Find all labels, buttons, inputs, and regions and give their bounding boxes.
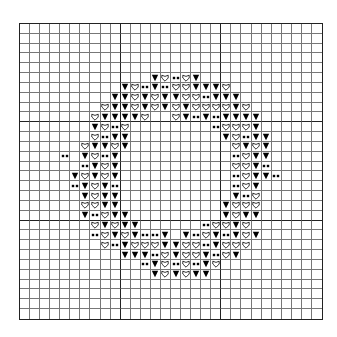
filled-triangle-icon	[242, 142, 250, 150]
grid-cell	[282, 181, 292, 191]
filled-triangle-icon	[242, 211, 250, 219]
grid-cell	[70, 201, 80, 211]
grid-cell	[191, 240, 201, 250]
grid-cell	[272, 250, 282, 260]
outline-heart-icon	[131, 83, 139, 91]
grid-cell	[151, 240, 161, 250]
grid-cell	[221, 201, 231, 211]
grid-cell	[151, 132, 161, 142]
grid-cell	[80, 280, 90, 290]
grid-cell	[60, 122, 70, 132]
outline-heart-icon	[131, 93, 139, 101]
grid-cell	[121, 270, 131, 280]
grid-cell	[131, 103, 141, 113]
filled-triangle-icon	[141, 103, 149, 111]
grid-cell	[40, 63, 50, 73]
grid-cell	[241, 142, 251, 152]
grid-cell	[211, 63, 221, 73]
filled-triangle-icon	[242, 113, 250, 121]
grid-cell	[211, 240, 221, 250]
grid-cell	[20, 309, 30, 319]
grid-cell	[131, 201, 141, 211]
outline-heart-icon	[151, 93, 159, 101]
grid-cell	[121, 309, 131, 319]
grid-cell	[20, 44, 30, 54]
outline-heart-icon	[131, 241, 139, 249]
grid-cell	[121, 24, 131, 34]
grid-cell	[211, 73, 221, 83]
grid-cell	[252, 152, 262, 162]
grid-cell	[292, 289, 302, 299]
grid-cell	[80, 250, 90, 260]
grid-cell	[302, 270, 312, 280]
grid-cell	[70, 289, 80, 299]
grid-cell	[141, 289, 151, 299]
grid-cell	[292, 122, 302, 132]
filled-triangle-icon	[101, 192, 109, 200]
grid-cell	[151, 83, 161, 93]
grid-cell	[272, 93, 282, 103]
grid-cell	[302, 250, 312, 260]
grid-cell	[141, 132, 151, 142]
grid-cell	[171, 162, 181, 172]
grid-cell	[231, 162, 241, 172]
outline-heart-icon	[81, 201, 89, 209]
grid-cell	[221, 103, 231, 113]
grid-cell	[252, 162, 262, 172]
grid-cell	[50, 132, 60, 142]
double-dot-icon	[202, 93, 210, 101]
grid-cell	[131, 181, 141, 191]
grid-cell	[101, 191, 111, 201]
grid-cell	[272, 132, 282, 142]
grid-cell	[282, 83, 292, 93]
double-dot-icon	[202, 221, 210, 229]
grid-cell	[221, 250, 231, 260]
outline-heart-icon	[212, 221, 220, 229]
outline-heart-icon	[252, 201, 260, 209]
grid-cell	[50, 250, 60, 260]
grid-cell	[171, 280, 181, 290]
grid-cell	[90, 181, 100, 191]
grid-cell	[70, 230, 80, 240]
outline-heart-icon	[192, 251, 200, 259]
grid-cell	[50, 181, 60, 191]
grid-cell	[171, 211, 181, 221]
grid-cell	[121, 191, 131, 201]
grid-cell	[161, 171, 171, 181]
grid-cell	[90, 162, 100, 172]
grid-cell	[70, 221, 80, 231]
filled-triangle-icon	[222, 211, 230, 219]
grid-cell	[211, 270, 221, 280]
grid-cell	[211, 142, 221, 152]
grid-cell	[80, 270, 90, 280]
grid-cell	[131, 171, 141, 181]
grid-cell	[111, 250, 121, 260]
grid-cell	[50, 112, 60, 122]
grid-cell	[121, 162, 131, 172]
grid-cell	[161, 181, 171, 191]
grid-cell	[181, 103, 191, 113]
grid-cell	[292, 152, 302, 162]
grid-cell	[312, 250, 322, 260]
grid-cell	[121, 44, 131, 54]
filled-triangle-icon	[131, 113, 139, 121]
grid-cell	[201, 112, 211, 122]
grid-cell	[252, 171, 262, 181]
grid-cell	[241, 309, 251, 319]
grid-cell	[151, 112, 161, 122]
grid-cell	[111, 280, 121, 290]
grid-cell	[221, 132, 231, 142]
outline-heart-icon	[111, 142, 119, 150]
grid-cell	[292, 250, 302, 260]
filled-triangle-icon	[131, 251, 139, 259]
grid-cell	[231, 181, 241, 191]
grid-cell	[181, 83, 191, 93]
grid-cell	[101, 162, 111, 172]
grid-cell	[40, 309, 50, 319]
grid-cell	[211, 309, 221, 319]
grid-cell	[262, 103, 272, 113]
grid-cell	[292, 34, 302, 44]
grid-cell	[161, 250, 171, 260]
grid-cell	[241, 171, 251, 181]
double-dot-icon	[111, 182, 119, 190]
